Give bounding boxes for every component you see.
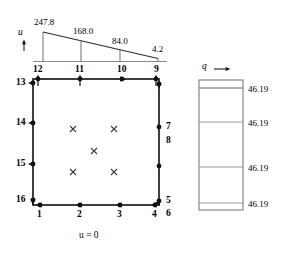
head-axis-label: u xyxy=(18,28,23,38)
node-label-12: 12 xyxy=(33,65,43,75)
node-label-10: 10 xyxy=(117,65,127,75)
node-label-1: 1 xyxy=(37,210,42,220)
head-value-4: 4.2 xyxy=(152,45,163,54)
flux-axis-label: q xyxy=(202,62,207,72)
top-edge-nodes xyxy=(36,75,159,86)
node-label-16: 16 xyxy=(16,195,26,205)
head-profile-diagram xyxy=(22,32,167,62)
figure-graphics xyxy=(0,0,285,253)
head-value-1: 247.8 xyxy=(34,18,54,27)
node-label-9: 9 xyxy=(154,65,159,75)
head-value-3: 84.0 xyxy=(112,37,128,46)
node-label-11: 11 xyxy=(75,65,84,75)
node-label-4: 4 xyxy=(152,210,157,220)
boundary-condition-label: u = 0 xyxy=(79,231,99,241)
flux-value-3: 46.19 xyxy=(248,164,268,173)
left-edge-nodes xyxy=(28,80,36,205)
node-label-6: 6 xyxy=(166,209,171,219)
head-value-2: 168.0 xyxy=(73,27,93,36)
node-label-7: 7 xyxy=(166,122,171,132)
flux-value-4: 46.19 xyxy=(248,200,268,209)
node-label-8: 8 xyxy=(166,136,171,146)
node-label-15: 15 xyxy=(16,159,26,169)
flux-value-1: 46.19 xyxy=(248,85,268,94)
flux-value-2: 46.19 xyxy=(248,119,268,128)
mesh-square xyxy=(33,79,159,205)
node-label-5: 5 xyxy=(166,196,171,206)
fem-mesh-figure: 247.8 168.0 84.0 4.2 u 12 11 10 9 13 14 … xyxy=(0,0,285,253)
flux-column xyxy=(199,67,243,210)
node-label-13: 13 xyxy=(16,78,26,88)
right-edge-nodes xyxy=(154,82,162,206)
node-label-14: 14 xyxy=(16,118,26,128)
node-label-2: 2 xyxy=(77,210,82,220)
interior-cross-markers xyxy=(70,126,117,175)
node-label-3: 3 xyxy=(117,210,122,220)
